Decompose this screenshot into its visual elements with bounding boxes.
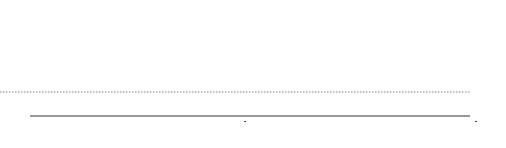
spectrum-diagram <box>0 0 506 148</box>
center-numerator <box>244 120 246 122</box>
center-frequency-label <box>244 120 246 123</box>
axis-label <box>475 120 477 123</box>
axis-numerator <box>475 120 477 122</box>
